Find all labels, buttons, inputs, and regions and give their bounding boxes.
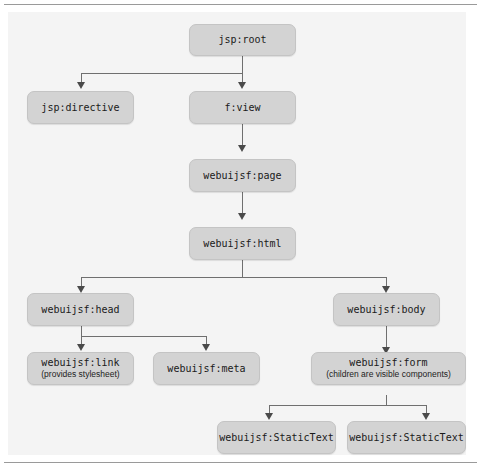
node-label: webuijsf:meta [167, 363, 245, 375]
node-webuijsf-statictext-1[interactable]: webuijsf:StaticText [217, 421, 336, 454]
arrow-page-to-html [238, 213, 246, 220]
node-label: webuijsf:head [41, 304, 119, 316]
node-label: webuijsf:link [41, 357, 119, 369]
arrow-html-to-head [77, 286, 85, 293]
node-webuijsf-statictext-2[interactable]: webuijsf:StaticText [347, 421, 466, 454]
arrow-head-to-meta [202, 344, 210, 351]
figure-bottom-rule [4, 462, 477, 463]
node-f-view[interactable]: f:view [189, 91, 296, 124]
arrow-form-to-statictext1 [265, 413, 273, 420]
arrow-html-to-body [382, 286, 390, 293]
node-label: webuijsf:page [203, 170, 281, 182]
node-label: jsp:root [218, 34, 266, 46]
component-tree-figure: jsp:root jsp:directive f:view webuijsf:p… [0, 0, 481, 471]
edge-html-bar [81, 277, 386, 278]
node-sublabel: (children are visible components) [326, 369, 451, 380]
edge-html-stem [242, 260, 243, 278]
node-webuijsf-meta[interactable]: webuijsf:meta [153, 352, 260, 385]
node-webuijsf-link[interactable]: webuijsf:link (provides stylesheet) [27, 352, 134, 385]
node-webuijsf-html[interactable]: webuijsf:html [189, 227, 296, 260]
node-label: webuijsf:form [349, 357, 427, 369]
node-label: webuijsf:body [347, 304, 425, 316]
edge-root-bar [81, 73, 243, 74]
edge-page-to-html [242, 192, 243, 215]
node-label: webuijsf:StaticText [219, 432, 333, 444]
node-label: webuijsf:StaticText [349, 432, 463, 444]
node-webuijsf-page[interactable]: webuijsf:page [189, 159, 296, 192]
arrow-view-to-page [238, 145, 246, 152]
arrow-head-to-link [77, 344, 85, 351]
edge-root-stem [242, 56, 243, 74]
diagram-panel: jsp:root jsp:directive f:view webuijsf:p… [8, 12, 466, 455]
node-webuijsf-head[interactable]: webuijsf:head [27, 293, 134, 326]
node-webuijsf-body[interactable]: webuijsf:body [333, 293, 440, 326]
figure-top-rule [4, 4, 477, 5]
node-label: f:view [224, 102, 260, 114]
arrow-root-to-view [238, 82, 246, 89]
arrow-root-to-directive [77, 82, 85, 89]
node-webuijsf-form[interactable]: webuijsf:form (children are visible comp… [311, 352, 466, 385]
node-label: webuijsf:html [203, 238, 281, 250]
edge-head-bar [81, 336, 206, 337]
node-jsp-directive[interactable]: jsp:directive [27, 91, 134, 124]
edge-form-bar [269, 405, 426, 406]
node-sublabel: (provides stylesheet) [41, 369, 119, 380]
edge-body-to-form [386, 326, 387, 349]
edge-view-to-page [242, 124, 243, 147]
node-jsp-root[interactable]: jsp:root [189, 24, 296, 56]
arrow-form-to-statictext2 [422, 413, 430, 420]
node-label: jsp:directive [41, 102, 119, 114]
